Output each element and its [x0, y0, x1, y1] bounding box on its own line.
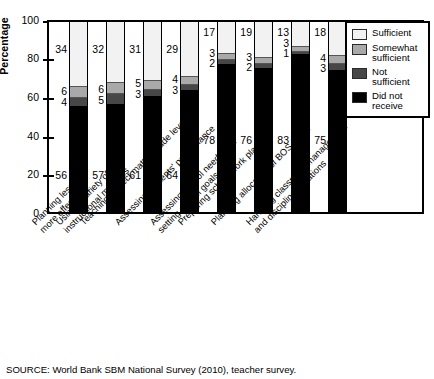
y-tick-label-40: 40	[13, 131, 39, 141]
legend-swatch-did-not-receive-icon	[352, 92, 367, 103]
legend-swatch-not-sufficient-icon	[352, 68, 367, 79]
legend-item-sufficient[interactable]: Sufficient	[352, 28, 424, 40]
legend-label-line1: Did not	[372, 90, 402, 101]
segment-somewhat-sufficient	[329, 56, 346, 64]
value-label-b8-sufficient: 18	[306, 27, 326, 38]
legend-label-sufficient: Sufficient	[372, 28, 411, 38]
value-label-b4-somewhat: 4	[158, 74, 178, 85]
y-axis-title: Percentage	[0, 6, 10, 86]
legend-label-line2: receive	[372, 100, 403, 111]
value-label-b3-sufficient: 31	[121, 44, 141, 55]
chart-legend: Sufficient Somewhat sufficient Not suffi…	[345, 21, 430, 118]
value-label-b5-not: 2	[195, 58, 215, 69]
value-label-b1-not: 4	[47, 97, 67, 108]
legend-item-somewhat-sufficient[interactable]: Somewhat sufficient	[352, 43, 424, 64]
y-inner-tick-80	[49, 59, 54, 61]
value-label-b6-sufficient: 19	[232, 27, 252, 38]
y-tick-100	[43, 21, 49, 23]
value-label-b4-not: 3	[158, 85, 178, 96]
y-tick-label-60: 60	[13, 92, 39, 102]
legend-item-did-not-receive[interactable]: Did not receive	[352, 91, 424, 112]
y-tick-label-80: 80	[13, 53, 39, 63]
value-label-b5-sufficient: 17	[195, 27, 215, 38]
value-label-b1-sufficient: 34	[47, 44, 67, 55]
value-label-b1-somewhat: 6	[47, 86, 67, 97]
y-tick-label-100: 100	[13, 15, 39, 25]
legend-label-not-sufficient: Not sufficient	[372, 67, 410, 88]
legend-label-line1: Somewhat	[372, 42, 417, 53]
stacked-bar-chart-figure: Percentage 100 80 60 40 20 0 34 6 4 56	[0, 0, 434, 379]
value-label-b7-not: 1	[269, 48, 289, 59]
value-label-b3-not: 3	[121, 89, 141, 100]
legend-swatch-sufficient-icon	[352, 29, 367, 40]
value-label-b2-somewhat: 6	[84, 84, 104, 95]
segment-somewhat-sufficient	[181, 77, 198, 85]
x-axis-label-group: Planning lessons more effectively Using …	[0, 214, 434, 354]
legend-label-line2: sufficient	[372, 76, 410, 87]
legend-label-line1: Not	[372, 66, 387, 77]
value-label-b1-didnot: 56	[47, 170, 67, 181]
value-label-b8-not: 3	[306, 63, 326, 74]
value-label-b4-sufficient: 29	[158, 44, 178, 55]
legend-swatch-somewhat-sufficient-icon	[352, 44, 367, 55]
segment-sufficient	[329, 22, 346, 56]
value-label-b6-not: 2	[232, 62, 252, 73]
value-label-b3-somewhat: 5	[121, 78, 141, 89]
legend-label-line2: sufficient	[372, 52, 410, 63]
source-note: SOURCE: World Bank SBM National Survey (…	[6, 364, 296, 375]
value-label-b2-sufficient: 32	[84, 44, 104, 55]
y-inner-tick-40	[49, 137, 54, 139]
value-label-b2-not: 5	[84, 95, 104, 106]
legend-item-not-sufficient[interactable]: Not sufficient	[352, 67, 424, 88]
y-tick-label-20: 20	[13, 169, 39, 179]
legend-label-did-not-receive: Did not receive	[372, 91, 403, 112]
value-label-b7-sufficient: 13	[269, 27, 289, 38]
legend-label-somewhat-sufficient: Somewhat sufficient	[372, 43, 417, 64]
